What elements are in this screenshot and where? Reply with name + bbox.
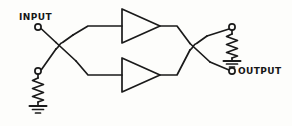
wire-bottom-rail-in bbox=[76, 61, 122, 75]
wire-amp-bottom-out bbox=[160, 50, 190, 75]
wire-input-to-crossover bbox=[42, 29, 57, 43]
wire-crossover-to-r2 bbox=[207, 29, 229, 36]
wire-crossover-right-straight bbox=[190, 44, 210, 63]
wire-crossover-left-straight bbox=[56, 43, 76, 62]
wire-top-rail-in bbox=[73, 26, 122, 35]
wire-r1-to-crossover bbox=[42, 49, 57, 70]
terminal-output bbox=[229, 68, 235, 74]
terminal-resistor-right-top bbox=[229, 24, 235, 30]
wire-crossover-left-hop bbox=[56, 35, 73, 49]
terminal-input bbox=[35, 24, 41, 30]
resistor-right-icon bbox=[227, 34, 238, 58]
resistor-left-icon bbox=[33, 78, 44, 102]
amplifier-top-icon bbox=[122, 9, 160, 43]
input-terminal-label: INPUT bbox=[19, 13, 52, 22]
amplifier-bottom-icon bbox=[122, 58, 160, 92]
terminal-resistor-left-top bbox=[35, 68, 41, 74]
schematic-page: INPUT OUTPUT bbox=[0, 0, 292, 126]
output-terminal-label: OUTPUT bbox=[238, 67, 282, 76]
wire-amp-top-out bbox=[160, 26, 190, 44]
wire-crossover-to-output bbox=[210, 62, 229, 70]
wire-crossover-right-hop bbox=[190, 36, 207, 50]
